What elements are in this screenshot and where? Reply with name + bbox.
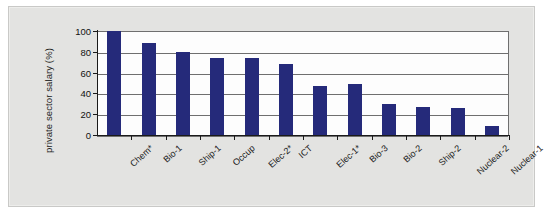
x-axis-tick [200,136,201,140]
bar [348,84,362,135]
x-axis-tick-label: Elec-2* [266,143,294,170]
y-axis-tick [93,52,97,53]
x-axis-tick [269,136,270,140]
x-axis-tick [131,136,132,140]
bar-series [97,31,509,135]
bar [142,43,156,135]
x-axis-tick [475,136,476,140]
bar [382,104,396,135]
x-axis-tick-label: Occup [231,143,257,168]
y-axis-tick [93,93,97,94]
x-axis-tick [509,136,510,140]
chart-plate: private sector salary (%) 020406080100 C… [8,6,535,207]
x-axis-tick [337,136,338,140]
y-axis-tick [93,114,97,115]
bar [176,52,190,135]
x-axis-tick [234,136,235,140]
y-axis-tick-label: 60 [63,67,91,78]
x-axis-tick-label: ICT [297,143,314,160]
y-axis-tick-label: 40 [63,88,91,99]
x-axis-tick [372,136,373,140]
x-axis-tick-label: Nuclear-2 [475,143,511,177]
x-axis-tick-label: Bio-1 [161,143,183,164]
x-axis-tick-label: Chem* [128,143,155,169]
x-axis-tick [303,136,304,140]
bar [416,107,430,135]
bar [451,108,465,135]
bar [245,58,259,135]
y-axis-tick [93,73,97,74]
y-axis-tick-label: 0 [63,130,91,141]
bar [313,86,327,135]
y-axis-tick [93,31,97,32]
x-axis-tick-label: Elec-1* [335,143,363,170]
y-axis-tick-label: 100 [63,26,91,37]
x-axis-tick [440,136,441,140]
y-axis-title: private sector salary (%) [43,36,54,166]
x-axis-tick-label: Ship-1 [197,143,223,168]
x-axis-tick [166,136,167,140]
y-axis-tick-labels: 020406080100 [59,7,91,222]
y-axis-tick-label: 20 [63,109,91,120]
x-axis-tick-label: Bio-3 [367,143,389,164]
bar [279,64,293,135]
x-axis-tick-label: Ship-2 [437,143,463,168]
bar [210,58,224,135]
x-axis-tick-label: Nuclear-1 [509,143,545,177]
y-axis-tick [93,135,97,136]
y-axis-tick-label: 80 [63,46,91,57]
x-axis-tick [406,136,407,140]
bar [485,126,499,135]
bar [107,31,121,135]
x-axis-tick-label: Bio-2 [401,143,423,164]
